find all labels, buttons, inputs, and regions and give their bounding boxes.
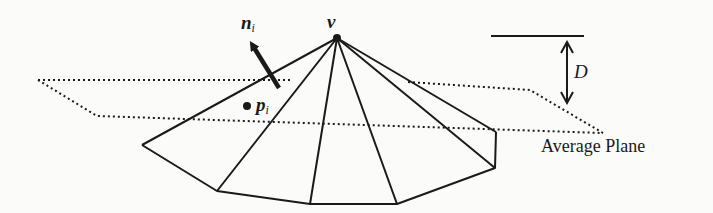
distance-label-text: D [574,61,588,82]
vertex-label: v [327,12,335,31]
plane-front-edge [38,80,603,133]
fan-edge-3 [310,38,337,204]
plane-back-edge-right [408,82,603,133]
point-label-sub: i [266,103,269,117]
diagram-canvas [0,0,713,213]
fan-edge-2 [217,38,337,191]
normal-label: ni [241,13,255,34]
normal-label-main: n [241,12,252,33]
fan-edge-1 [142,38,337,145]
normal-label-sub: i [252,21,255,35]
vertex-v-dot [333,34,341,42]
average-plane-label: Average Plane [541,137,645,155]
point-label: pi [256,95,269,116]
point-label-main: p [256,94,266,115]
fan-edge-6 [337,38,496,132]
point-pi-dot [243,102,251,110]
average-plane [38,80,603,133]
vertex-label-text: v [327,11,335,32]
distance-label: D [574,62,588,81]
average-plane-label-text: Average Plane [541,136,645,156]
triangle-fan [142,38,496,204]
